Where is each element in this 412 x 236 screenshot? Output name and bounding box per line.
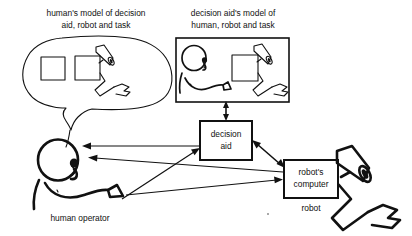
decision-aid-label-line2: aid: [220, 141, 232, 151]
diagram-canvas: human's model of decision aid, robot and…: [0, 0, 412, 236]
robot-figure: [332, 146, 400, 230]
decision-aid-label-line1: decision: [211, 129, 242, 139]
task-square: [75, 56, 100, 80]
scan-speck: [267, 213, 268, 214]
human-operator-figure: [34, 140, 123, 210]
caption-robot: robot: [301, 203, 321, 213]
decision-aid-square: [41, 57, 65, 80]
robot-computer-label-line1: robot's: [299, 167, 324, 177]
arrow-aid-to-model-bidirectional: [223, 101, 229, 121]
caption-aid-model-line1: decision aid's model of: [191, 8, 276, 18]
caption-aid-model-line2: human, robot and task: [191, 20, 275, 30]
caption-human-model-line2: aid, robot and task: [62, 20, 132, 30]
arrow-aid-to-robot-computer-bidirectional: [252, 140, 285, 168]
diagram-svg: human's model of decision aid, robot and…: [0, 0, 412, 236]
arrow-human-hand-to-robot-computer: [126, 176, 283, 195]
caption-human-model-line1: human's model of decision: [47, 8, 146, 18]
robot-computer-label-line2: computer: [294, 179, 329, 189]
caption-human-operator: human operator: [50, 213, 109, 223]
arrow-aid-to-human-head: [82, 143, 199, 150]
